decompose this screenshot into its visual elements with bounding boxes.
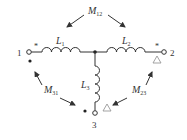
mutual-m12-label: M12 (87, 5, 102, 17)
m23-arrow-down (113, 98, 127, 105)
triangle-mark-l3 (103, 104, 111, 111)
terminal-1: 1 (17, 48, 31, 58)
terminal-3-label: 3 (92, 120, 97, 130)
terminal-3-circle (93, 111, 98, 116)
terminal-2-circle (162, 50, 167, 55)
terminal-3: 3 (92, 111, 97, 130)
inductor-l1-label: L1 (55, 35, 65, 47)
terminal-1-label: 1 (17, 48, 22, 58)
terminal-1-circle (27, 50, 32, 55)
inductor-l3-label: L3 (80, 79, 90, 91)
dot-mark-l3 (83, 109, 86, 112)
terminal-2: 2 (162, 48, 175, 58)
triangle-mark-l2 (153, 56, 161, 63)
terminal-2-label: 2 (170, 48, 175, 58)
dot-mark-l1 (28, 59, 31, 62)
m31-arrow-up (35, 72, 42, 85)
star-mark-l2: * (155, 42, 159, 51)
m31-arrow-down (60, 98, 75, 105)
inductor-l3-coil (95, 66, 100, 102)
coupled-inductor-circuit: 1 2 3 L1 L2 L3 M12 M31 M23 * * (0, 0, 187, 140)
mutual-m31-label: M31 (43, 84, 58, 96)
inductor-l1-coil (42, 48, 80, 53)
star-mark-l1: * (34, 42, 38, 51)
inductor-l2-label: L2 (121, 35, 131, 47)
inductor-l2-coil (107, 48, 145, 53)
m12-arrow-right (108, 15, 125, 27)
m12-arrow-left (67, 15, 84, 27)
m23-arrow-up (146, 72, 152, 85)
mutual-m23-label: M23 (131, 84, 146, 96)
